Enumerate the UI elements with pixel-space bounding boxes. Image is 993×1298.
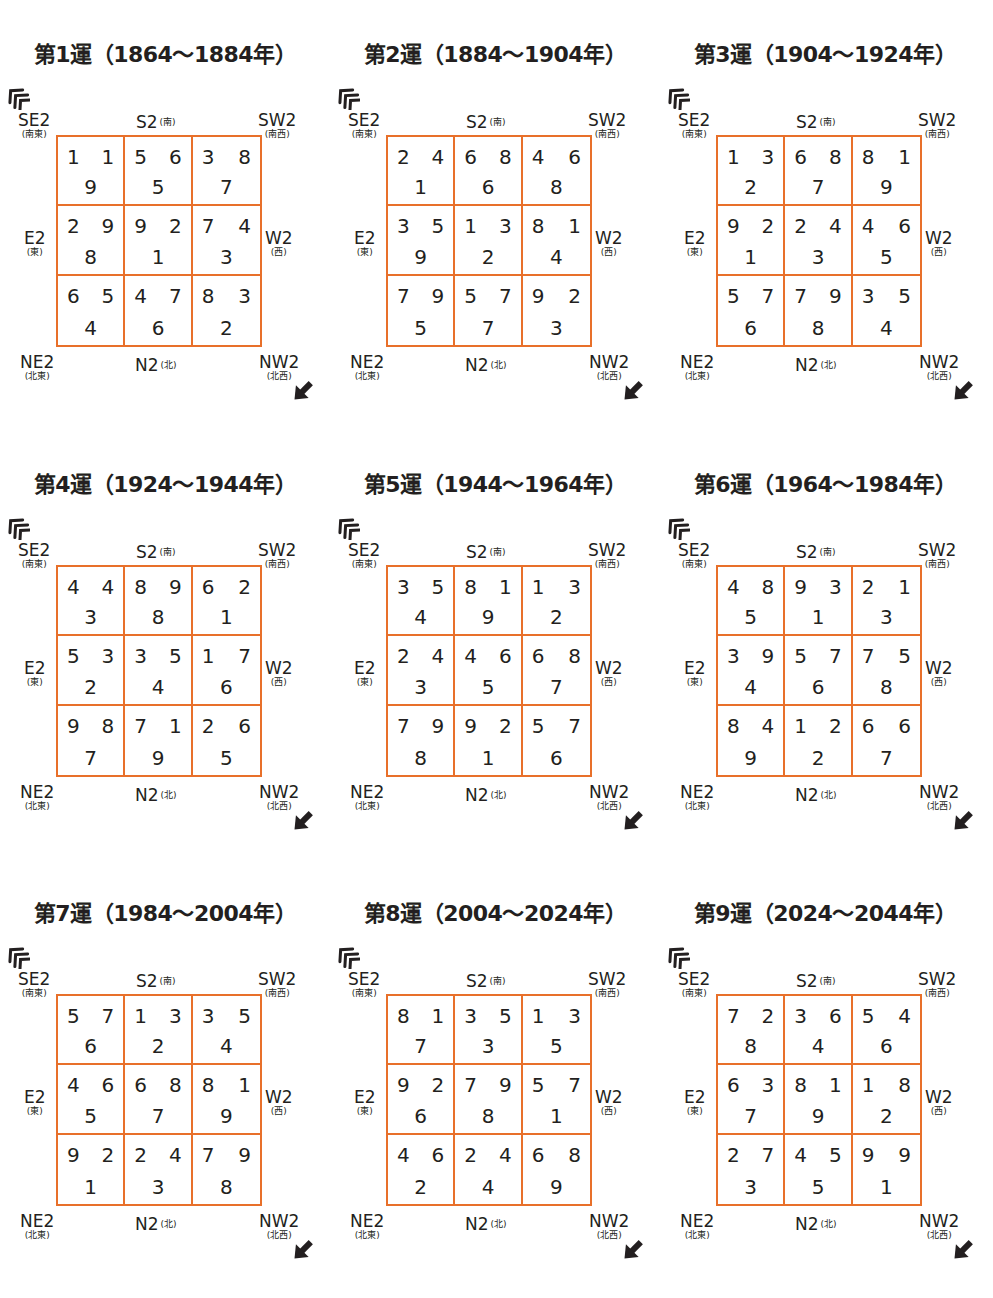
water-star: 5 — [898, 644, 911, 668]
mountain-star: 6 — [794, 145, 807, 169]
grid-cell: 2 4 1 — [388, 137, 455, 206]
grid-cell: 5 7 6 — [523, 706, 590, 775]
base-star: 1 — [125, 245, 190, 269]
label-east: E2 (東) — [24, 660, 46, 687]
water-star: 2 — [762, 1004, 775, 1028]
period-title: 第7運（1984〜2004年） — [0, 895, 330, 927]
grid-cell: 9 8 7 — [58, 706, 125, 775]
grid-cell: 6 8 7 — [523, 636, 590, 705]
label-east: E2 (東) — [684, 230, 706, 257]
entrance-chevron-icon — [4, 84, 30, 110]
base-star: 9 — [523, 1175, 590, 1199]
period-chart-9: 第9運（2024〜2044年） SE2 (南東) S2(南) SW2 (南西) … — [660, 859, 990, 1289]
mountain-star: 7 — [794, 284, 807, 308]
water-star: 9 — [432, 714, 445, 738]
base-star: 5 — [523, 1034, 590, 1058]
base-star: 9 — [455, 605, 520, 629]
base-star: 6 — [58, 1034, 123, 1058]
water-star: 7 — [568, 1073, 581, 1097]
base-star: 5 — [193, 746, 260, 770]
mountain-star: 1 — [862, 1073, 875, 1097]
base-star: 7 — [388, 1034, 453, 1058]
grid-cell: 2 6 5 — [193, 706, 260, 775]
label-north: N2(北) — [135, 787, 177, 804]
base-star: 3 — [388, 675, 453, 699]
base-star: 7 — [853, 746, 920, 770]
label-southwest: SW2 (南西) — [588, 971, 626, 998]
diagonal-arrow-icon — [620, 1237, 646, 1263]
grid-cell: 7 9 8 — [785, 276, 852, 345]
grid-cell: 3 5 3 — [455, 996, 522, 1065]
water-star: 3 — [238, 284, 251, 308]
water-star: 6 — [499, 644, 512, 668]
mountain-star: 3 — [202, 1004, 215, 1028]
mountain-star: 9 — [464, 714, 477, 738]
diagonal-arrow-icon — [950, 1237, 976, 1263]
grid-cell: 4 7 6 — [125, 276, 192, 345]
grid-cell: 7 2 8 — [718, 996, 785, 1065]
grid-cell: 7 1 9 — [125, 706, 192, 775]
water-star: 7 — [499, 284, 512, 308]
label-northwest: NW2 (北西) — [919, 354, 959, 381]
water-star: 4 — [432, 644, 445, 668]
label-northwest: NW2 (北西) — [589, 1213, 629, 1240]
water-star: 6 — [432, 1143, 445, 1167]
mountain-star: 8 — [532, 214, 545, 238]
label-south: S2(南) — [466, 114, 506, 131]
water-star: 4 — [432, 145, 445, 169]
mountain-star: 2 — [727, 1143, 740, 1167]
water-star: 2 — [568, 284, 581, 308]
base-star: 4 — [718, 675, 783, 699]
water-star: 8 — [898, 1073, 911, 1097]
base-star: 7 — [125, 1104, 190, 1128]
period-chart-7: 第7運（1984〜2004年） SE2 (南東) S2(南) SW2 (南西) … — [0, 859, 330, 1289]
mountain-star: 3 — [727, 644, 740, 668]
base-star: 8 — [455, 1104, 520, 1128]
label-south: S2(南) — [796, 544, 836, 561]
water-star: 8 — [499, 145, 512, 169]
base-star: 6 — [785, 675, 850, 699]
base-star: 9 — [853, 175, 920, 199]
mountain-star: 1 — [464, 214, 477, 238]
base-star: 2 — [455, 245, 520, 269]
mountain-star: 9 — [67, 1143, 80, 1167]
mountain-star: 9 — [862, 1143, 875, 1167]
base-star: 7 — [193, 175, 260, 199]
mountain-star: 5 — [532, 714, 545, 738]
label-southeast: SE2 (南東) — [348, 971, 380, 998]
base-star: 2 — [125, 1034, 190, 1058]
mountain-star: 7 — [134, 714, 147, 738]
base-star: 5 — [125, 175, 190, 199]
water-star: 6 — [898, 714, 911, 738]
water-star: 7 — [762, 284, 775, 308]
mountain-star: 6 — [532, 1143, 545, 1167]
label-north: N2(北) — [795, 357, 837, 374]
label-west: W2 (西) — [265, 230, 293, 257]
water-star: 9 — [238, 1143, 251, 1167]
water-star: 8 — [568, 644, 581, 668]
base-star: 5 — [455, 675, 520, 699]
water-star: 3 — [568, 575, 581, 599]
grid-cell: 5 7 6 — [718, 276, 785, 345]
diagonal-arrow-icon — [290, 1237, 316, 1263]
label-east: E2 (東) — [684, 660, 706, 687]
water-star: 4 — [829, 214, 842, 238]
entrance-chevron-icon — [4, 943, 30, 969]
water-star: 5 — [499, 1004, 512, 1028]
label-west: W2 (西) — [925, 1089, 953, 1116]
mountain-star: 5 — [794, 644, 807, 668]
grid-cell: 9 9 1 — [853, 1135, 920, 1204]
mountain-star: 5 — [134, 145, 147, 169]
base-star: 2 — [58, 675, 123, 699]
nine-palace-grid: 4 4 3 8 9 8 6 2 1 5 3 2 3 5 4 1 7 6 9 8 … — [56, 565, 262, 777]
diagonal-arrow-icon — [950, 378, 976, 404]
mountain-star: 2 — [202, 714, 215, 738]
base-star: 5 — [58, 1104, 123, 1128]
mountain-star: 5 — [532, 1073, 545, 1097]
water-star: 2 — [762, 214, 775, 238]
mountain-star: 3 — [464, 1004, 477, 1028]
base-star: 4 — [388, 605, 453, 629]
grid-cell: 3 5 4 — [853, 276, 920, 345]
label-north: N2(北) — [465, 787, 507, 804]
mountain-star: 1 — [532, 575, 545, 599]
